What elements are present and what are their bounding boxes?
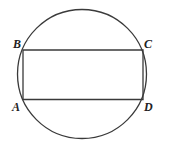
inscribed-rectangle-abcd — [23, 50, 143, 100]
vertex-label-b: B — [13, 38, 21, 50]
circumscribed-circle — [18, 10, 147, 139]
vertex-label-d: D — [144, 101, 153, 113]
vertex-label-a: A — [12, 101, 20, 113]
diagram-canvas: B C A D — [0, 0, 169, 147]
geometry-figure — [0, 0, 169, 147]
vertex-label-c: C — [144, 38, 152, 50]
